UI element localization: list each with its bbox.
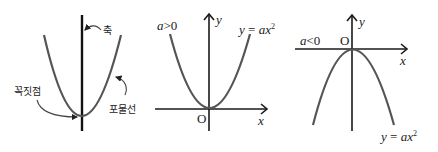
y-axis-label: y xyxy=(214,12,222,27)
axis-pointer xyxy=(85,26,101,30)
parabola-pointer xyxy=(116,77,126,95)
parabola-curve xyxy=(313,50,394,126)
origin-label: O xyxy=(340,33,349,48)
equation-label: y = ax2 xyxy=(237,22,275,37)
parabola-diagram: 축 꼭짓점 포물선 a>0 y x O y = ax2 a<0 y xyxy=(0,0,438,152)
parabola-curve xyxy=(170,34,250,108)
x-axis-label: x xyxy=(399,53,406,68)
y-axis-label: y xyxy=(357,14,365,29)
panel-parabola-anatomy: 축 꼭짓점 포물선 xyxy=(14,15,136,131)
vertex-label: 꼭짓점 xyxy=(14,86,41,97)
axis-label: 축 xyxy=(103,25,112,36)
parabola-label: 포물선 xyxy=(109,104,136,115)
x-axis-label: x xyxy=(257,113,264,128)
equation-label: y = ax2 xyxy=(379,129,417,144)
panel-upward-parabola: a>0 y x O y = ax2 xyxy=(155,12,275,131)
condition-label: a<0 xyxy=(300,33,320,48)
condition-label: a>0 xyxy=(157,18,177,33)
origin-label: O xyxy=(197,111,206,126)
panel-downward-parabola: a<0 y x O y = ax2 xyxy=(295,14,417,144)
